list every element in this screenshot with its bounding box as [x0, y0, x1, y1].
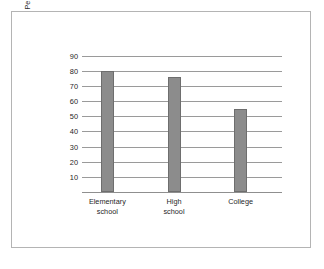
category-label-line: College: [228, 197, 253, 207]
y-tick-label: 10: [70, 172, 78, 181]
category-label: Highschool: [163, 197, 184, 216]
category-label-line: Elementary: [89, 197, 126, 207]
category-label-line: school: [163, 207, 184, 217]
y-tick-label: 50: [70, 112, 78, 121]
category-label: College: [228, 197, 253, 207]
category-label-line: High: [163, 197, 184, 207]
x-axis-baseline: [82, 192, 282, 193]
bar: [168, 77, 181, 192]
category-label-line: school: [89, 207, 126, 217]
y-tick-label: 30: [70, 142, 78, 151]
gridline: [82, 56, 282, 57]
category-label: Elementaryschool: [89, 197, 126, 216]
chart-page: Percentage of children favoring the same…: [0, 0, 324, 269]
bar: [101, 71, 114, 192]
y-tick-label: 70: [70, 81, 78, 90]
y-axis-title-line-1: Percentage of children favoring the same: [23, 0, 33, 10]
y-tick-label: 60: [70, 97, 78, 106]
y-tick-label: 80: [70, 66, 78, 75]
plot-area: 908070605040302010 ElementaryschoolHighs…: [82, 48, 282, 192]
bar: [234, 109, 247, 192]
y-tick-label: 90: [70, 51, 78, 60]
y-tick-label: 40: [70, 127, 78, 136]
y-tick-label: 20: [70, 157, 78, 166]
